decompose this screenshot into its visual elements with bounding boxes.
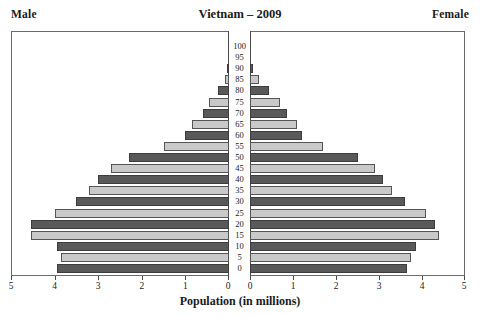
x-tick-label-3: 3 <box>369 280 389 292</box>
bar-row <box>11 142 229 151</box>
bar-row <box>11 175 229 184</box>
bar-row <box>250 209 465 218</box>
age-tick-label-5: 5 <box>229 253 250 262</box>
x-tick-label-2: 2 <box>132 280 152 292</box>
bar-male-age-80 <box>218 86 229 95</box>
chart-title: Vietnam – 2009 <box>0 7 480 22</box>
age-tick-label-15: 15 <box>229 231 250 240</box>
bar-female-age-55 <box>250 142 323 151</box>
bar-row <box>11 197 229 206</box>
bar-row <box>250 42 465 51</box>
x-tick-label-2: 2 <box>326 280 346 292</box>
bar-male-age-30 <box>76 197 229 206</box>
x-tick-label-5: 5 <box>1 280 21 292</box>
age-tick-label-95: 95 <box>229 53 250 62</box>
bar-row <box>250 64 465 73</box>
bar-row <box>11 75 229 84</box>
bar-row <box>250 197 465 206</box>
bar-row <box>250 253 465 262</box>
bar-row <box>11 231 229 240</box>
age-tick-label-65: 65 <box>229 120 250 129</box>
bar-male-age-65 <box>192 120 229 129</box>
age-tick-label-50: 50 <box>229 153 250 162</box>
female-x-axis: 012345 <box>250 276 465 294</box>
x-tick-label-0: 0 <box>218 280 238 292</box>
bar-female-age-30 <box>250 197 405 206</box>
bar-row <box>11 109 229 118</box>
age-tick-label-45: 45 <box>229 164 250 173</box>
age-axis: 0510152025303540455055606570758085909510… <box>229 31 250 276</box>
age-tick-label-20: 20 <box>229 220 250 229</box>
bar-female-age-5 <box>250 253 411 262</box>
age-tick-label-80: 80 <box>229 86 250 95</box>
bar-male-age-35 <box>89 186 229 195</box>
age-tick-label-90: 90 <box>229 64 250 73</box>
age-tick-label-75: 75 <box>229 98 250 107</box>
bar-female-age-10 <box>250 242 416 251</box>
bar-row <box>11 153 229 162</box>
bar-row <box>11 209 229 218</box>
age-tick-label-40: 40 <box>229 175 250 184</box>
bar-male-age-75 <box>209 98 229 107</box>
x-tick-label-1: 1 <box>283 280 303 292</box>
bar-female-age-90 <box>250 64 253 73</box>
bar-male-age-40 <box>98 175 229 184</box>
population-pyramid-chart: Male Vietnam – 2009 Female 0510152025303… <box>0 0 480 317</box>
age-tick-label-0: 0 <box>229 264 250 273</box>
bar-row <box>250 242 465 251</box>
bar-male-age-15 <box>31 231 229 240</box>
female-bars-group <box>250 31 465 276</box>
bar-female-age-0 <box>250 264 407 273</box>
bar-row <box>11 186 229 195</box>
bar-row <box>11 164 229 173</box>
age-tick-label-10: 10 <box>229 242 250 251</box>
bar-row <box>11 120 229 129</box>
bar-female-age-35 <box>250 186 392 195</box>
bar-male-age-10 <box>57 242 229 251</box>
bar-row <box>11 253 229 262</box>
bar-male-age-20 <box>31 220 229 229</box>
bar-male-age-70 <box>203 109 229 118</box>
bar-row <box>250 264 465 273</box>
bar-row <box>250 164 465 173</box>
bar-row <box>11 264 229 273</box>
bar-row <box>250 175 465 184</box>
bar-row <box>250 231 465 240</box>
bar-row <box>11 242 229 251</box>
male-x-axis: 012345 <box>11 276 229 294</box>
age-tick-label-55: 55 <box>229 142 250 151</box>
bar-female-age-40 <box>250 175 383 184</box>
bar-female-age-80 <box>250 86 269 95</box>
x-tick-label-5: 5 <box>454 280 474 292</box>
bar-female-age-45 <box>250 164 375 173</box>
bar-row <box>250 75 465 84</box>
bar-row <box>250 86 465 95</box>
age-tick-label-30: 30 <box>229 197 250 206</box>
bar-female-age-50 <box>250 153 358 162</box>
bar-female-age-70 <box>250 109 287 118</box>
age-tick-label-35: 35 <box>229 186 250 195</box>
bar-row <box>11 220 229 229</box>
bar-row <box>250 186 465 195</box>
age-tick-label-25: 25 <box>229 209 250 218</box>
bar-female-age-20 <box>250 220 435 229</box>
bar-male-age-45 <box>111 164 229 173</box>
x-tick-label-1: 1 <box>175 280 195 292</box>
bar-female-age-60 <box>250 131 302 140</box>
x-tick-label-3: 3 <box>88 280 108 292</box>
bar-row <box>250 142 465 151</box>
age-tick-label-100: 100 <box>229 42 250 51</box>
bar-female-age-85 <box>250 75 259 84</box>
bar-male-age-55 <box>164 142 229 151</box>
bar-row <box>11 42 229 51</box>
bar-row <box>11 98 229 107</box>
x-tick-label-0: 0 <box>240 280 260 292</box>
bar-male-age-5 <box>61 253 229 262</box>
female-side-label: Female <box>432 8 469 20</box>
bar-male-age-25 <box>55 209 229 218</box>
bar-row <box>11 64 229 73</box>
age-tick-label-85: 85 <box>229 75 250 84</box>
bar-row <box>11 53 229 62</box>
bar-male-age-60 <box>185 131 229 140</box>
x-axis-title: Population (in millions) <box>0 294 480 309</box>
